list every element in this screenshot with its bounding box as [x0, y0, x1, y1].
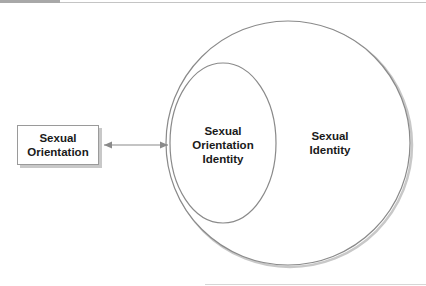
soi-label-line3: Identity — [183, 152, 263, 166]
sexual-orientation-label-line2: Orientation — [27, 145, 88, 159]
sexual-orientation-identity-label: Sexual Orientation Identity — [183, 124, 263, 166]
soi-label-line1: Sexual — [183, 124, 263, 138]
sexual-orientation-box: Sexual Orientation — [17, 125, 99, 165]
sexual-orientation-label-line1: Sexual — [39, 131, 76, 145]
sexual-identity-label: Sexual Identity — [300, 129, 360, 157]
si-label-line2: Identity — [300, 143, 360, 157]
si-label-line1: Sexual — [300, 129, 360, 143]
soi-label-line2: Orientation — [183, 138, 263, 152]
